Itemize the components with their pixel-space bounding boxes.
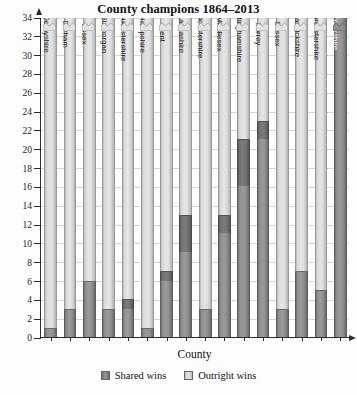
x-axis-tick: [205, 337, 206, 341]
y-axis-tick: [34, 206, 41, 207]
bar-segment-shared[interactable]: [276, 309, 289, 337]
bar-segment-shared[interactable]: [141, 328, 154, 337]
stacked-bar[interactable]: [141, 18, 154, 337]
bar-segment-shared[interactable]: [102, 309, 115, 337]
stacked-bar[interactable]: [64, 18, 77, 337]
bar-segment-shared-base[interactable]: [237, 186, 250, 337]
stacked-bar[interactable]: [122, 18, 135, 337]
bar-segment-shared[interactable]: [218, 215, 231, 234]
y-axis-tick-label: 26: [23, 88, 33, 98]
bar-segment-shared[interactable]: [179, 215, 192, 253]
bar-segment-shared[interactable]: [64, 309, 77, 337]
y-axis-tick-label: 20: [23, 145, 33, 155]
bar-category-label: Derbyshire: [42, 18, 51, 53]
stacked-bar[interactable]: [295, 18, 308, 337]
bar-segment-shared[interactable]: [199, 309, 212, 337]
bar-segment-shared[interactable]: [122, 299, 135, 308]
x-axis-tick: [340, 337, 341, 341]
y-axis-tick-label: 12: [23, 220, 33, 230]
legend-label: Shared wins: [115, 370, 167, 381]
bar-group[interactable]: Lancashire: [179, 18, 192, 337]
y-axis-tick-label: 16: [23, 182, 33, 192]
x-axis-title: County: [40, 348, 349, 360]
y-axis-tick-label: 2: [27, 314, 32, 324]
stacked-bar[interactable]: [83, 18, 96, 337]
stacked-bar[interactable]: [315, 18, 328, 337]
stacked-bar[interactable]: [276, 18, 289, 337]
stacked-bar[interactable]: [257, 18, 270, 337]
bar-segment-outright[interactable]: [276, 18, 289, 309]
bar-segment-shared[interactable]: [237, 139, 250, 186]
bar-segment-shared[interactable]: [315, 290, 328, 337]
stacked-bar[interactable]: [160, 18, 173, 337]
y-axis-tick: [34, 262, 41, 263]
y-axis-tick-label: 8: [27, 258, 32, 268]
y-axis-tick: [34, 130, 41, 131]
y-axis-tick-label: 30: [23, 51, 33, 61]
bar-category-label: Gloucestershire: [119, 18, 128, 61]
legend-item-outright[interactable]: Outright wins: [184, 370, 256, 381]
bar-segment-shared[interactable]: [83, 281, 96, 337]
bar-group[interactable]: Nottinghamshire: [237, 18, 250, 337]
bar-segment-outright[interactable]: [160, 18, 173, 271]
stacked-bar[interactable]: [334, 18, 347, 337]
y-axis-tick-label: 4: [27, 295, 32, 305]
bar-group[interactable]: Warwickshire: [295, 18, 308, 337]
bar-group[interactable]: Worcestershire: [315, 18, 328, 337]
stacked-bar[interactable]: [102, 18, 115, 337]
bar-category-label: Leicestershire: [196, 18, 205, 58]
bar-segment-outright[interactable]: [102, 18, 115, 309]
stacked-bar[interactable]: [199, 18, 212, 337]
x-axis-tick: [224, 337, 225, 341]
x-axis-tick: [263, 337, 264, 341]
bar-group[interactable]: Essex: [83, 18, 96, 337]
plot-inner: DerbyshireDurhamEssexGlamorganGloucester…: [41, 18, 349, 337]
x-axis-tick: [282, 337, 283, 341]
stacked-bar[interactable]: [218, 18, 231, 337]
bar-segment-shared-base[interactable]: [160, 281, 173, 337]
bar-group[interactable]: Leicestershire: [199, 18, 212, 337]
bar-segment-shared[interactable]: [160, 271, 173, 280]
stacked-bar[interactable]: [237, 18, 250, 337]
bar-segment-shared-base[interactable]: [257, 139, 270, 337]
y-axis-tick: [34, 112, 41, 113]
bar-group[interactable]: Glamorgan: [102, 18, 115, 337]
bar-segment-shared[interactable]: [257, 121, 270, 140]
plot-area: DerbyshireDurhamEssexGlamorganGloucester…: [40, 18, 349, 338]
stacked-bar[interactable]: [179, 18, 192, 337]
bar-segment-outright[interactable]: [141, 18, 154, 328]
bar-category-label: Yorkshire: [331, 18, 340, 50]
bar-segment-shared[interactable]: [334, 18, 347, 337]
bar-group[interactable]: Kent: [160, 18, 173, 337]
y-axis-tick-label: 0: [27, 333, 32, 343]
bar-category-label: Surrey: [254, 23, 263, 46]
page-title: County champions 1864–2013: [0, 2, 357, 17]
x-axis-tick: [147, 337, 148, 341]
legend-label: Outright wins: [198, 370, 256, 381]
bar-group[interactable]: Gloucestershire: [122, 18, 135, 337]
y-axis-tick-label: 6: [27, 277, 32, 287]
bar-segment-shared-base[interactable]: [218, 233, 231, 337]
y-axis-tick: [34, 36, 41, 37]
stacked-bar[interactable]: [44, 18, 57, 337]
x-axis-tick: [89, 337, 90, 341]
bar-group[interactable]: Surrey: [257, 18, 270, 337]
bar-segment-outright[interactable]: [199, 18, 212, 309]
bar-group[interactable]: Durham: [64, 18, 77, 337]
legend-item-shared[interactable]: Shared wins: [101, 370, 167, 381]
bar-segment-outright[interactable]: [83, 18, 96, 281]
bar-category-label: Warwickshire: [293, 18, 302, 57]
bar-segment-outright[interactable]: [64, 18, 77, 309]
bar-segment-shared[interactable]: [295, 271, 308, 337]
y-axis-tick: [34, 18, 41, 19]
bar-segment-outright[interactable]: [44, 18, 57, 328]
bar-segment-shared-base[interactable]: [122, 309, 135, 337]
bar-group[interactable]: Sussex: [276, 18, 289, 337]
bar-group[interactable]: Middlesex: [218, 18, 231, 337]
y-axis-arrow-icon: [36, 8, 42, 15]
bar-group[interactable]: Yorkshire: [334, 18, 347, 337]
bar-group[interactable]: Derbyshire: [44, 18, 57, 337]
bar-segment-shared[interactable]: [44, 328, 57, 337]
bar-group[interactable]: Hampshire: [141, 18, 154, 337]
bar-segment-shared-base[interactable]: [179, 252, 192, 337]
